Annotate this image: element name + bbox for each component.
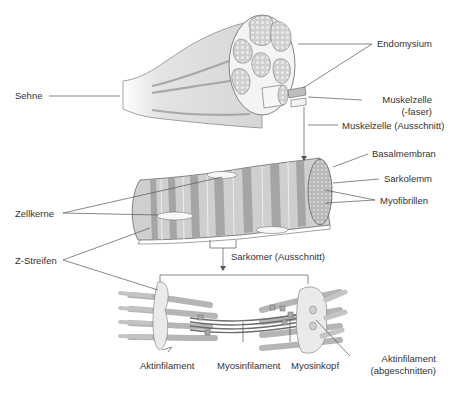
- arrow-head: [220, 266, 226, 271]
- label-sarcolemma: Sarkolemm: [384, 173, 432, 184]
- muscle-structure-diagram: Sehne Endomysium Muskelzelle (-faser) Mu…: [0, 0, 451, 394]
- label-muscle-cell-fiber: (-faser): [366, 106, 432, 117]
- muscle-cross-section: [229, 15, 306, 115]
- label-sarcomere-cutout: Sarkomer (Ausschnitt): [231, 251, 325, 262]
- label-muscle-cell-cutout: Muskelzelle (Ausschnitt): [342, 120, 444, 131]
- sarcomere: [120, 282, 345, 353]
- label-tendon: Sehne: [15, 90, 42, 101]
- fiber-cut-end: [308, 159, 332, 225]
- label-myosin: Myosinfilament: [217, 360, 280, 371]
- muscle-fiber: [132, 158, 332, 244]
- label-myosin-head: Myosinkopf: [291, 360, 339, 371]
- label-muscle-cell: Muskelzelle: [366, 94, 432, 105]
- nucleus: [157, 212, 193, 220]
- label-z-lines: Z-Streifen: [15, 255, 57, 266]
- label-endomysium: Endomysium: [377, 38, 432, 49]
- sarcomere-zoom-bracket: [160, 275, 308, 284]
- nucleus: [256, 227, 288, 234]
- label-actin-cut: Aktinfilament: [366, 353, 436, 364]
- label-nuclei: Zellkerne: [15, 208, 54, 219]
- nucleus: [207, 172, 237, 179]
- label-basal-membrane: Basalmembran: [372, 148, 436, 159]
- label-myofibrils: Myofibrillen: [380, 195, 428, 206]
- label-actin-cut-suffix: (abgeschnitten): [356, 365, 436, 376]
- label-actin: Aktinfilament: [140, 360, 194, 371]
